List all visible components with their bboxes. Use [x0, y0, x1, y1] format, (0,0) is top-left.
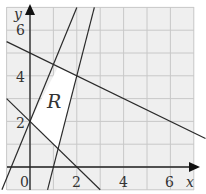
region-label: R [46, 90, 61, 112]
coordinate-plane: 0 2 4 6 x 2 4 6 y R [0, 0, 206, 194]
y-tick-6: 6 [16, 22, 25, 38]
x-tick-2: 2 [72, 174, 81, 190]
x-tick-6: 6 [165, 174, 174, 190]
y-tick-2: 2 [16, 115, 25, 131]
x-axis-label: x [186, 174, 194, 190]
origin-label: 0 [20, 174, 29, 190]
y-tick-4: 4 [16, 69, 25, 85]
graph: 0 2 4 6 x 2 4 6 y R [0, 0, 206, 194]
y-axis-label: y [13, 6, 23, 22]
x-tick-4: 4 [119, 174, 128, 190]
